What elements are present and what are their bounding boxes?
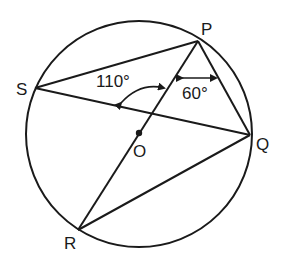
label-s: S: [16, 80, 27, 99]
label-p: P: [201, 20, 212, 39]
angle-label-110: 110°: [96, 72, 130, 91]
label-q: Q: [256, 135, 269, 154]
center-point: [136, 130, 142, 136]
label-o: O: [133, 142, 146, 161]
angle-label-60: 60°: [182, 84, 208, 103]
circle-diagram: P S Q R O 110° 60°: [0, 0, 288, 260]
segment-rq: [78, 135, 250, 230]
label-r: R: [64, 234, 76, 253]
